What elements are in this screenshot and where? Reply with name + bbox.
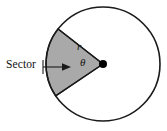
- sector-wedge: [46, 29, 103, 96]
- sector-text-label: Sector: [6, 59, 36, 71]
- radius-text-label: r: [77, 41, 81, 52]
- angle-theta-label: θ: [80, 57, 85, 68]
- center-point-dot: [99, 60, 107, 68]
- sector-diagram-figure: Sector r θ: [0, 0, 167, 131]
